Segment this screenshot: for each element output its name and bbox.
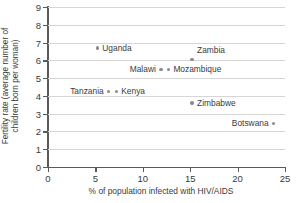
x-tick-mark <box>143 168 144 172</box>
data-point[interactable] <box>159 68 162 71</box>
x-tick-label: 15 <box>175 173 205 184</box>
data-point[interactable] <box>115 90 118 93</box>
data-point[interactable] <box>96 46 99 49</box>
y-tick-label: 4 <box>0 90 41 101</box>
data-point-label: Botswana <box>232 118 269 128</box>
x-tick-mark <box>95 168 96 172</box>
x-tick-mark <box>285 168 286 172</box>
x-tick-mark <box>238 168 239 172</box>
y-tick-label: 0 <box>0 162 41 173</box>
data-point[interactable] <box>167 68 170 71</box>
y-tick-label: 2 <box>0 126 41 137</box>
data-point-label: Mozambique <box>173 64 221 74</box>
x-axis-title: % of population infected with HIV/AIDS <box>30 186 292 196</box>
data-point-label: Zambia <box>197 45 225 55</box>
data-point-label: Zimbabwe <box>197 98 236 108</box>
x-tick-mark <box>48 168 49 172</box>
data-point-label: Tanzania <box>70 86 104 96</box>
x-axis-line <box>47 167 286 168</box>
scatter-chart: Fertility rate (average number of childr… <box>0 0 299 203</box>
x-tick-label: 5 <box>80 173 110 184</box>
data-point[interactable] <box>190 58 193 61</box>
y-tick-label: 6 <box>0 55 41 66</box>
y-tick-label: 3 <box>0 108 41 119</box>
data-point-label: Malawi <box>130 64 156 74</box>
x-tick-label: 25 <box>270 173 299 184</box>
y-tick-label: 1 <box>0 144 41 155</box>
x-tick-mark <box>190 168 191 172</box>
x-tick-label: 20 <box>223 173 253 184</box>
data-point-label: Uganda <box>102 43 131 53</box>
y-tick-label: 8 <box>0 19 41 30</box>
data-point-label: Kenya <box>121 86 145 96</box>
x-tick-label: 0 <box>33 173 63 184</box>
x-tick-label: 10 <box>128 173 158 184</box>
y-tick-label: 5 <box>0 73 41 84</box>
data-point[interactable] <box>190 101 193 104</box>
y-tick-label: 7 <box>0 37 41 48</box>
y-tick-label: 9 <box>0 2 41 13</box>
